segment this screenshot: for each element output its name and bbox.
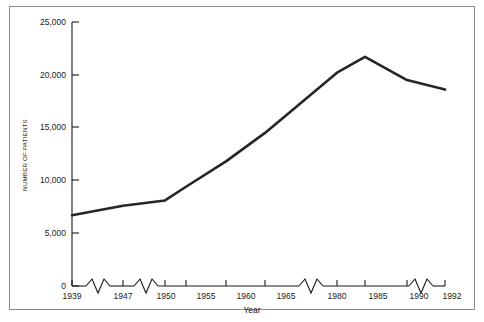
x-tick-label-1980: 1980 xyxy=(328,291,347,301)
x-tick-label-1992: 1992 xyxy=(443,291,462,301)
x-axis-break-icon-3 xyxy=(299,279,323,293)
x-axis-break-icon-2 xyxy=(134,279,158,293)
x-tick-label-1950: 1950 xyxy=(157,291,176,301)
y-tick-label-5000: 5,000 xyxy=(45,228,67,238)
y-tick-label-0: 0 xyxy=(61,281,66,291)
line-chart: 25,000 20,000 15,000 10,000 5,000 0 NUMB… xyxy=(0,0,484,322)
y-tick-label-15000: 15,000 xyxy=(40,122,66,132)
y-tick-label-20000: 20,000 xyxy=(40,70,66,80)
x-tick-label-1985: 1985 xyxy=(369,291,388,301)
x-tick-label-1947: 1947 xyxy=(114,291,133,301)
x-tick-label-1960: 1960 xyxy=(237,291,256,301)
series-group xyxy=(72,57,445,215)
x-tick-label-1955: 1955 xyxy=(197,291,216,301)
x-tick-label-1939: 1939 xyxy=(63,291,82,301)
x-tick-label-1990: 1990 xyxy=(410,291,429,301)
x-tick-label-1965: 1965 xyxy=(277,291,296,301)
x-axis-break-icon-1 xyxy=(86,279,110,293)
data-line-number-of-patients xyxy=(72,57,445,215)
x-axis: 1939 1947 1950 1955 1960 1965 1980 1985 … xyxy=(63,279,462,315)
y-axis: 25,000 20,000 15,000 10,000 5,000 0 NUMB… xyxy=(21,17,79,291)
y-axis-title: NUMBER OF PATIENTS xyxy=(21,119,28,191)
y-tick-label-25000: 25,000 xyxy=(40,17,66,27)
y-tick-label-10000: 10,000 xyxy=(40,175,66,185)
chart-screenshot: 25,000 20,000 15,000 10,000 5,000 0 NUMB… xyxy=(0,0,484,322)
x-axis-title: Year xyxy=(243,305,260,315)
